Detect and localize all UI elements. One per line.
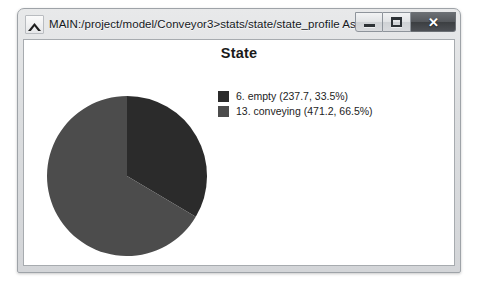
pie-chart-svg [46,95,208,257]
chart-canvas: State 6. empty (237.7, 33.5%) 13. convey… [23,39,455,266]
peak-chart-icon [25,15,44,34]
close-icon: ✕ [428,16,439,29]
minimize-icon [364,24,375,27]
legend-label: 6. empty (237.7, 33.5%) [236,91,348,102]
window-controls: ✕ [355,12,456,32]
maximize-icon [391,17,402,27]
close-button[interactable]: ✕ [411,12,456,32]
legend-swatch [218,91,229,102]
legend-swatch [218,106,229,117]
legend-item[interactable]: 13. conveying (471.2, 66.5%) [218,105,373,118]
legend-label: 13. conveying (471.2, 66.5%) [236,106,373,117]
pie-chart [46,95,208,257]
application-window: MAIN:/project/model/Conveyor3>stats/stat… [17,8,461,273]
maximize-button[interactable] [383,12,411,32]
legend-item[interactable]: 6. empty (237.7, 33.5%) [218,90,373,103]
chart-legend: 6. empty (237.7, 33.5%) 13. conveying (4… [218,90,373,118]
window-title: MAIN:/project/model/Conveyor3>stats/stat… [49,19,391,31]
title-bar[interactable]: MAIN:/project/model/Conveyor3>stats/stat… [20,11,458,38]
minimize-button[interactable] [355,12,383,32]
chart-title: State [24,45,454,61]
window-inner: MAIN:/project/model/Conveyor3>stats/stat… [20,11,458,270]
